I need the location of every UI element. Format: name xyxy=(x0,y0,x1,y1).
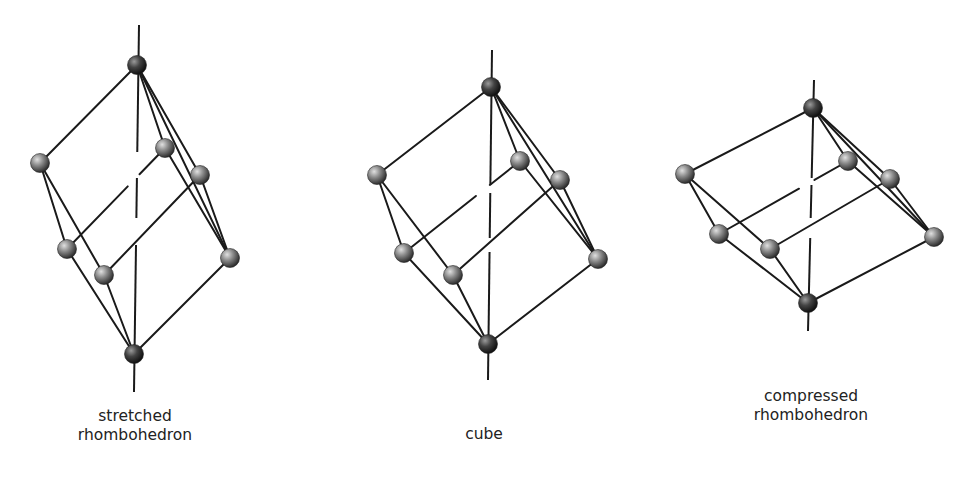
atom-back xyxy=(511,152,530,171)
label-line: rhombohedron xyxy=(754,406,868,425)
edge xyxy=(137,65,200,175)
edge xyxy=(453,275,488,344)
edge xyxy=(377,175,404,253)
atom-right-up xyxy=(881,170,900,189)
label-line: cube xyxy=(465,425,503,444)
edge xyxy=(165,148,230,258)
edge xyxy=(491,87,520,161)
atom-low-mid xyxy=(95,266,114,285)
figure-cube xyxy=(368,50,608,380)
edge xyxy=(491,87,598,259)
edge xyxy=(488,259,598,344)
label-compressed-rhombohedron: compressed rhombohedron xyxy=(754,387,868,425)
atom-right-up xyxy=(551,171,570,190)
threefold-axis-segment xyxy=(808,238,810,331)
threefold-axis-segment xyxy=(134,245,136,392)
atom-right-low xyxy=(589,250,608,269)
edge-hidden-part xyxy=(719,189,799,234)
atom-right-up xyxy=(191,166,210,185)
edge xyxy=(40,163,67,249)
atom-left xyxy=(31,154,50,173)
edge-hidden-part xyxy=(67,186,128,249)
atom-top xyxy=(482,78,501,97)
edge xyxy=(685,108,813,174)
threefold-axis-segment xyxy=(137,25,139,152)
atom-low-left xyxy=(710,225,729,244)
threefold-axis-segment xyxy=(136,178,137,218)
label-line: stretched xyxy=(78,407,192,426)
atom-right-low xyxy=(221,249,240,268)
atom-back xyxy=(839,152,858,171)
edge xyxy=(890,179,934,237)
atom-low-left xyxy=(395,244,414,263)
edge xyxy=(770,249,808,303)
edge xyxy=(685,174,719,234)
atom-top xyxy=(804,99,823,118)
threefold-axis-segment xyxy=(490,50,492,185)
edge xyxy=(770,179,890,249)
edge xyxy=(377,175,453,275)
atom-right-low xyxy=(925,228,944,247)
figure-stretched-rhombohedron xyxy=(31,25,240,392)
atom-low-left xyxy=(58,240,77,259)
atom-back xyxy=(156,139,175,158)
edge xyxy=(104,175,200,275)
atom-left xyxy=(368,166,387,185)
threefold-axis-segment xyxy=(490,193,491,238)
threefold-axis-segment xyxy=(812,80,814,178)
edge xyxy=(808,237,934,303)
label-stretched-rhombohedron: stretched rhombohedron xyxy=(78,407,192,445)
atom-bottom xyxy=(125,345,144,364)
label-cube: cube xyxy=(465,425,503,444)
edge xyxy=(40,65,137,163)
atom-low-mid xyxy=(444,266,463,285)
label-line: compressed xyxy=(754,387,868,406)
label-line: rhombohedron xyxy=(78,426,192,445)
edge xyxy=(134,258,230,354)
atom-bottom xyxy=(479,335,498,354)
atom-bottom xyxy=(799,294,818,313)
threefold-axis-segment xyxy=(488,252,490,380)
figure-compressed-rhombohedron xyxy=(676,80,944,331)
edge xyxy=(377,87,491,175)
atom-low-mid xyxy=(761,240,780,259)
threefold-axis-segment xyxy=(811,185,812,218)
edge xyxy=(453,180,560,275)
atom-top xyxy=(128,56,147,75)
atom-left xyxy=(676,165,695,184)
edge xyxy=(67,249,134,354)
edge xyxy=(813,108,934,237)
